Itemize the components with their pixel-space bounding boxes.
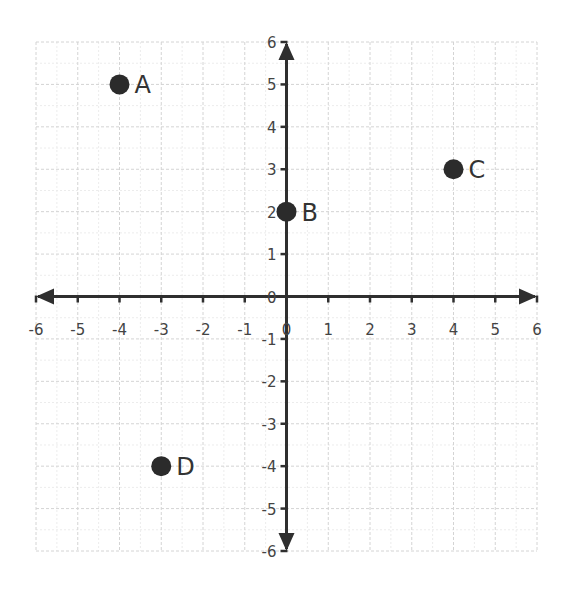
x-tick-label: 3 (407, 321, 417, 339)
y-tick-label: 3 (267, 161, 277, 179)
arrow-down-icon (279, 533, 295, 551)
point-marker (277, 202, 297, 222)
x-tick-label: 4 (449, 321, 459, 339)
x-tick-label: -4 (112, 321, 127, 339)
point-marker (151, 456, 171, 476)
point-a: A (110, 71, 152, 99)
x-tick-label: -3 (154, 321, 169, 339)
y-tick-label: 5 (267, 76, 277, 94)
y-tick-label: -5 (262, 501, 277, 519)
x-tick-label: 1 (323, 321, 333, 339)
point-c: C (444, 156, 486, 184)
arrow-right-icon (519, 289, 537, 305)
x-tick-label: 5 (490, 321, 500, 339)
y-tick-label: 6 (267, 34, 277, 52)
x-tick-label: -6 (29, 321, 44, 339)
x-tick-label: 2 (365, 321, 375, 339)
point-marker (444, 159, 464, 179)
x-tick-label: 0 (282, 321, 292, 339)
data-points: ABCD (110, 71, 486, 481)
point-label: C (469, 156, 486, 184)
y-tick-label: -1 (262, 331, 277, 349)
arrow-up-icon (279, 42, 295, 60)
point-label: D (176, 453, 194, 481)
y-tick-label: -3 (262, 416, 277, 434)
y-tick-label: 2 (267, 204, 277, 222)
x-tick-label: -5 (70, 321, 85, 339)
y-tick-label: 1 (267, 246, 277, 264)
point-marker (110, 74, 130, 94)
y-tick-label: 4 (267, 119, 277, 137)
x-tick-label: -1 (237, 321, 252, 339)
coordinate-plane: -6-5-4-3-2-10123456-6-5-4-3-2-10123456 A… (0, 0, 561, 589)
y-tick-label: -4 (262, 458, 277, 476)
point-b: B (277, 199, 318, 227)
point-label: B (302, 199, 318, 227)
arrow-left-icon (36, 289, 54, 305)
x-tick-label: -2 (196, 321, 211, 339)
point-label: A (135, 71, 152, 99)
y-tick-label: -2 (262, 373, 277, 391)
y-tick-label: -6 (262, 543, 277, 561)
point-d: D (151, 453, 194, 481)
x-tick-label: 6 (532, 321, 542, 339)
y-tick-label: 0 (267, 289, 277, 307)
